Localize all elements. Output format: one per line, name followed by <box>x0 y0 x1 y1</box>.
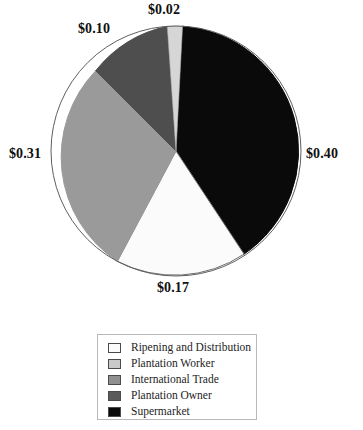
slice-value-label-ripening-and-distribution: $0.17 <box>157 281 189 295</box>
slice-value-label-plantation-worker: $0.31 <box>9 147 41 161</box>
legend-item-plantation-worker[interactable]: Plantation Worker <box>98 356 256 371</box>
pie-chart-area: $0.40 $0.17 $0.31 $0.10 $0.02 <box>0 0 363 300</box>
legend-item-ripening-and-distribution[interactable]: Ripening and Distribution <box>98 340 256 355</box>
legend-item-label: Plantation Worker <box>131 357 215 370</box>
legend-item-label: International Trade <box>131 373 219 386</box>
pie-slices <box>61 26 298 275</box>
legend-swatch-icon <box>108 343 121 353</box>
legend-item-supermarket[interactable]: Supermarket <box>98 404 256 419</box>
legend-swatch-icon <box>108 359 121 369</box>
slice-value-label-international-trade: $0.10 <box>78 22 110 36</box>
legend-item-label: Supermarket <box>131 405 190 418</box>
legend-item-label: Plantation Owner <box>131 389 212 402</box>
legend-item-international-trade[interactable]: International Trade <box>98 372 256 387</box>
legend-swatch-icon <box>108 407 121 417</box>
legend-swatch-icon <box>108 391 121 401</box>
legend-item-plantation-owner[interactable]: Plantation Owner <box>98 388 256 403</box>
pie-chart-figure: $0.40 $0.17 $0.31 $0.10 $0.02 Ripening a… <box>0 0 363 430</box>
legend-item-label: Ripening and Distribution <box>131 341 251 354</box>
slice-value-label-supermarket: $0.40 <box>306 147 338 161</box>
slice-value-label-plantation-owner: $0.02 <box>148 3 180 17</box>
chart-legend: Ripening and Distribution Plantation Wor… <box>97 334 257 420</box>
legend-swatch-icon <box>108 375 121 385</box>
